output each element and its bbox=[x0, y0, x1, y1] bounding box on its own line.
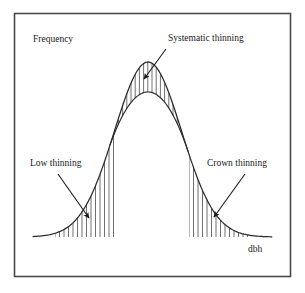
annotation-label-systematic-thinning: Systematic thinning bbox=[168, 33, 244, 43]
hatched-region-low-thinning bbox=[55, 132, 114, 239]
figure-frame bbox=[15, 14, 291, 277]
annotation-label-low-thinning: Low thinning bbox=[30, 158, 82, 168]
annotation-label-crown-thinning: Crown thinning bbox=[207, 158, 267, 168]
figure-container: Frequency dbh Systematic thinning Low th… bbox=[0, 0, 305, 293]
leader-line-crown bbox=[214, 174, 245, 217]
x-axis-label: dbh bbox=[248, 244, 263, 254]
leader-line-systematic bbox=[144, 49, 166, 79]
inner-arc bbox=[110, 92, 188, 151]
thinning-distribution-diagram: Frequency dbh Systematic thinning Low th… bbox=[0, 0, 305, 293]
leader-line-low bbox=[58, 174, 89, 218]
y-axis-label: Frequency bbox=[33, 34, 73, 44]
